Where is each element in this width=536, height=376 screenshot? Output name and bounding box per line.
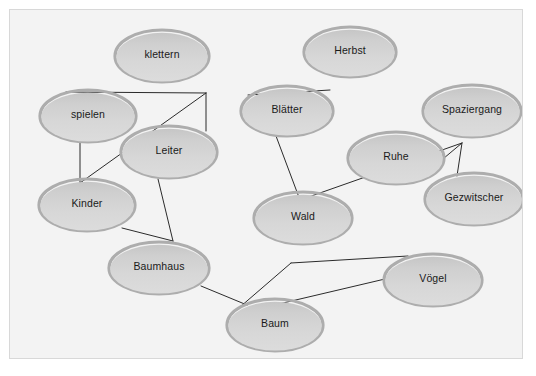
node-shape-herbst[interactable] [305, 30, 395, 77]
edge-kinder-baumhaus [122, 228, 173, 241]
node-voegel[interactable]: Vögel [384, 254, 482, 306]
node-baum[interactable]: Baum [227, 299, 323, 351]
node-shape-kinder[interactable] [40, 182, 134, 231]
node-shape-ruhe[interactable] [349, 135, 443, 184]
node-ruhe[interactable]: Ruhe [348, 132, 444, 184]
node-leiter[interactable]: Leiter [121, 126, 217, 178]
concept-map-screenshot: kletternHerbstspielenBlätterSpaziergangL… [0, 0, 536, 376]
node-spaziergang[interactable]: Spaziergang [423, 85, 521, 137]
concept-map-graph: kletternHerbstspielenBlätterSpaziergangL… [10, 10, 523, 359]
node-shape-spielen[interactable] [41, 93, 135, 142]
node-wald[interactable]: Wald [254, 192, 352, 244]
node-gezwitscher[interactable]: Gezwitscher [425, 173, 523, 225]
nodes-layer: kletternHerbstspielenBlätterSpaziergangL… [39, 27, 523, 351]
node-shape-leiter[interactable] [122, 129, 216, 178]
node-shape-voegel[interactable] [385, 257, 481, 306]
node-klettern[interactable]: klettern [115, 30, 209, 82]
edge-blaetter-wald [276, 136, 300, 200]
node-shape-klettern[interactable] [116, 33, 208, 82]
node-shape-baum[interactable] [228, 302, 322, 351]
node-shape-wald[interactable] [255, 195, 351, 244]
node-kinder[interactable]: Kinder [39, 179, 135, 231]
node-herbst[interactable]: Herbst [304, 27, 396, 77]
edge-junction-voegel-top [291, 256, 408, 263]
node-shape-spaziergang[interactable] [424, 88, 520, 137]
edge-leiter-baumhaus [158, 179, 173, 241]
node-baumhaus[interactable]: Baumhaus [109, 242, 209, 294]
node-spielen[interactable]: spielen [40, 90, 136, 142]
edge-baumhaus-baum [201, 286, 247, 305]
edge-junction-gezwitscher [457, 143, 462, 176]
node-shape-gezwitscher[interactable] [426, 176, 522, 225]
node-blaetter[interactable]: Blätter [241, 86, 333, 136]
node-shape-blaetter[interactable] [242, 89, 332, 136]
node-shape-baumhaus[interactable] [110, 245, 208, 294]
diagram-canvas: kletternHerbstspielenBlätterSpaziergangL… [9, 9, 523, 359]
